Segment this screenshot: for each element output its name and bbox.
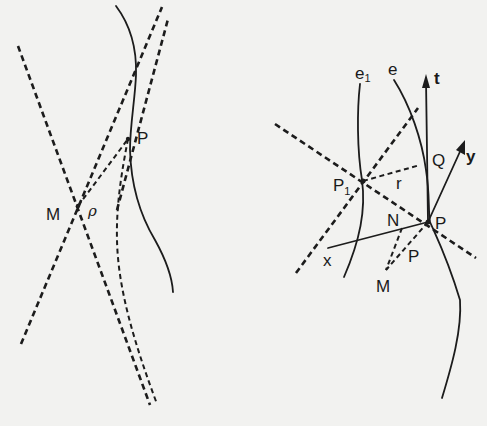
label-e: e [388,60,397,79]
label-M-left: M [46,205,60,224]
point-P-left [126,137,130,141]
label-M-right: M [376,277,390,296]
dashed-M-N [386,228,402,270]
arrow-t-icon [422,74,430,88]
label-P1: P1 [333,176,350,197]
diagram-canvas: P M ρ e1 e t Q y [0,0,487,426]
point-P-right [426,220,431,225]
left-curve [116,6,173,292]
axis-t [426,80,428,222]
label-t: t [434,69,440,88]
left-dashed-curve [117,139,157,404]
label-N: N [387,211,399,230]
left-dashed-line-c [117,19,168,210]
point-P1 [361,179,366,184]
label-e1: e1 [355,64,371,84]
arrow-y-icon [456,140,465,155]
point-M-left [76,204,80,208]
left-figure: P M ρ [18,6,173,405]
label-r: r [396,174,402,193]
label-y: y [466,147,476,166]
left-dashed-line-b [21,7,162,344]
right-figure: e1 e t Q y P1 r N P x M P [275,60,476,398]
left-dashed-line-a [18,46,150,405]
label-rho-left: ρ [87,202,97,220]
dashed-normal-line [275,124,476,258]
label-P-right: P [435,214,446,233]
label-rho-right: P [408,247,419,266]
label-P-left: P [137,129,148,148]
axis-x [328,222,428,248]
label-Q: Q [432,151,445,170]
label-x: x [323,251,332,270]
